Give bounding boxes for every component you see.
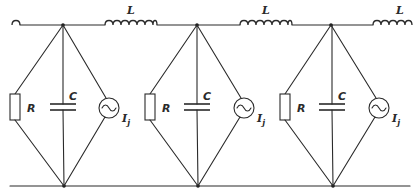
inductor-label-L3: L	[396, 5, 404, 16]
resistor-label-R2: R	[162, 103, 170, 114]
source-subscript: j	[397, 117, 400, 127]
capacitor-label-C3: C	[338, 91, 346, 102]
resistor-label-R1: R	[27, 103, 35, 114]
inductor-label-L1: L	[127, 5, 135, 16]
resistor-1	[10, 94, 20, 120]
inductor-label-L2: L	[262, 5, 270, 16]
resistor-3	[280, 94, 290, 120]
circuit-diagram: L L L R R R C C C Ij Ij Ij	[0, 0, 418, 192]
inductor-L2	[240, 21, 292, 26]
source-subscript: j	[262, 117, 265, 127]
inductor-stub-left	[12, 21, 20, 26]
capacitor-label-C1: C	[69, 91, 77, 102]
inductor-L3	[373, 21, 412, 26]
resistor-2	[145, 94, 155, 120]
source-subscript: j	[127, 117, 130, 127]
source-label-I2: Ij	[257, 113, 265, 124]
resistor-label-R3: R	[297, 103, 305, 114]
capacitor-label-C2: C	[203, 91, 211, 102]
inductor-L1	[105, 21, 157, 26]
source-label-I1: Ij	[122, 113, 130, 124]
source-label-I3: Ij	[392, 113, 400, 124]
